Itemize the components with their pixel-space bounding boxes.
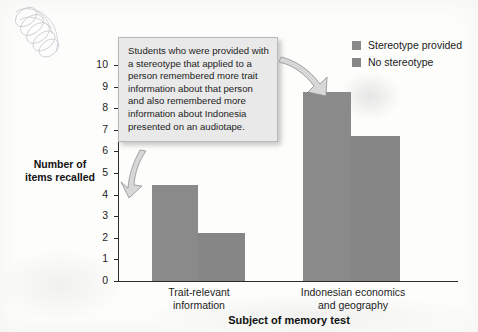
legend-item-no-stereotype: No stereotype (352, 55, 462, 70)
legend-item-stereotype-provided: Stereotype provided (352, 38, 462, 53)
x-category-label-2-line2: and geography (285, 299, 421, 312)
x-axis-line (118, 281, 458, 282)
x-category-label-1-line2: information (138, 299, 260, 312)
x-category-label-2-line1: Indonesian economics (285, 286, 421, 299)
x-category-label-2: Indonesian economics and geography (285, 286, 421, 312)
y-tick-6: 6 (114, 151, 118, 152)
y-tick-1: 1 (114, 259, 118, 260)
y-tick-0: 0 (114, 281, 118, 282)
annotation-callout: Students who were provided with a stereo… (118, 37, 278, 142)
bar-trait-stereotype-provided (152, 185, 198, 281)
x-axis-title: Subject of memory test (119, 314, 459, 326)
y-axis-title: Number of items recalled (14, 158, 106, 184)
y-tick-2: 2 (114, 238, 118, 239)
legend-swatch-icon (352, 41, 361, 50)
x-category-label-1-line1: Trait-relevant (138, 286, 260, 299)
bar-indonesia-stereotype-provided (303, 92, 351, 281)
y-tick-4: 4 (114, 195, 118, 196)
bar-indonesia-no-stereotype (351, 136, 400, 281)
legend-label: Stereotype provided (368, 39, 462, 52)
y-axis-title-line2: items recalled (14, 171, 106, 184)
y-tick-5: 5 (114, 173, 118, 174)
chart-page: Number of items recalled 10 9 8 7 6 5 4 … (0, 0, 478, 332)
y-axis-title-line1: Number of (14, 158, 106, 171)
spiral-doodle-artifact (4, 0, 78, 64)
legend-swatch-icon (352, 58, 361, 67)
legend-label: No stereotype (368, 56, 433, 69)
y-tick-3: 3 (114, 216, 118, 217)
x-category-label-1: Trait-relevant information (138, 286, 260, 312)
bar-trait-no-stereotype (198, 233, 245, 281)
chart-legend: Stereotype provided No stereotype (352, 38, 462, 72)
